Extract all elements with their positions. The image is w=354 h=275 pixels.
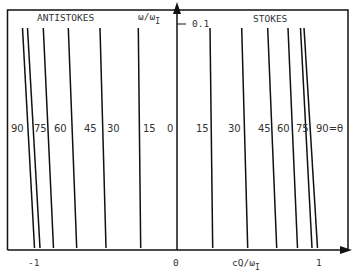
angle-label: 75 bbox=[34, 123, 47, 134]
angle-label: 30 bbox=[107, 123, 120, 134]
angle-label: 60 bbox=[277, 123, 290, 134]
angle-label: 90 bbox=[11, 123, 24, 134]
x-axis-arrow-icon bbox=[340, 246, 352, 254]
angle-label: 60 bbox=[54, 123, 67, 134]
line-as-60 bbox=[43, 28, 53, 248]
stokes-label: STOKES bbox=[253, 13, 288, 24]
angle-label: 15 bbox=[196, 123, 209, 134]
x-tick-label: 1 bbox=[316, 257, 322, 268]
angle-label: 15 bbox=[143, 123, 156, 134]
line-as-75 bbox=[28, 28, 41, 248]
x-tick-label: 0 bbox=[173, 257, 179, 268]
angle-label: 45 bbox=[258, 123, 271, 134]
antistokes-label: ANTISTOKES bbox=[37, 12, 94, 23]
angle-labels-right: 15 30 45 60 75 90=θ bbox=[196, 123, 343, 134]
line-s-15 bbox=[210, 28, 213, 248]
angle-label: 45 bbox=[84, 123, 97, 134]
line-s-60 bbox=[288, 28, 298, 248]
y-axis-arrow-icon bbox=[173, 2, 181, 14]
x-tick-labels: -1 0 1 bbox=[28, 257, 322, 268]
line-as-45 bbox=[68, 28, 76, 248]
angle-label: 75 bbox=[296, 123, 309, 134]
x-tick-label: -1 bbox=[28, 257, 40, 268]
line-s-45 bbox=[268, 28, 277, 248]
angle-label: 30 bbox=[228, 123, 241, 134]
line-s-30 bbox=[242, 28, 248, 248]
line-as-30 bbox=[100, 28, 106, 248]
angle-label: 0 bbox=[167, 123, 173, 134]
dispersion-diagram: ANTISTOKES STOKES ω/ωI 0.1 90 75 60 45 3… bbox=[0, 0, 354, 275]
angle-labels-left: 90 75 60 45 30 15 0 bbox=[11, 123, 173, 134]
antistokes-lines bbox=[23, 28, 141, 248]
stokes-lines bbox=[210, 28, 318, 248]
y-axis-label: ω/ωI bbox=[138, 11, 160, 26]
line-as-15 bbox=[138, 28, 140, 248]
y-tick-label: 0.1 bbox=[192, 18, 209, 29]
line-as-90 bbox=[23, 28, 35, 248]
x-axis-label: cQ/ωI bbox=[232, 257, 260, 272]
angle-label: 90=θ bbox=[316, 123, 343, 134]
